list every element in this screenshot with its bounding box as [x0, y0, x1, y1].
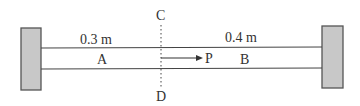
point-c-label: C: [156, 8, 165, 23]
left-wall: [21, 28, 41, 90]
length-a-label: 0.3 m: [80, 32, 112, 47]
right-wall: [322, 26, 343, 88]
segment-a-label: A: [97, 52, 108, 67]
length-b-label: 0.4 m: [225, 30, 257, 45]
segment-b-label: B: [240, 52, 249, 67]
point-p-label: P: [205, 51, 213, 66]
arrowhead-icon: [196, 55, 203, 61]
top-line: [41, 47, 322, 48]
string-diagram: C D 0.3 m 0.4 m A B P: [0, 0, 360, 106]
bottom-line: [41, 68, 322, 69]
point-d-label: D: [156, 89, 166, 104]
